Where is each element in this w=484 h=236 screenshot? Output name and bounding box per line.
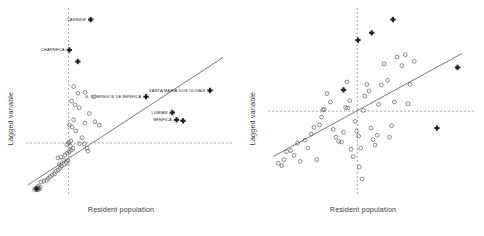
svg-text:CARNIDE: CARNIDE	[67, 17, 86, 22]
svg-text:SANTA MARIA DOS OLIVAIS: SANTA MARIA DOS OLIVAIS	[149, 88, 206, 93]
right-y-axis-label: Lagged variable	[246, 0, 260, 236]
svg-text:S. DOMINGOS DE BENFICA: S. DOMINGOS DE BENFICA	[85, 94, 141, 99]
moran-scatterplot-figure: CARNIDECHARNECASANTA MARIA DOS OLIVAISS.…	[0, 0, 484, 236]
right-panel: Lagged variable Resident population	[242, 0, 484, 236]
left-plot-canvas: CARNIDECHARNECASANTA MARIA DOS OLIVAISS.…	[0, 0, 242, 236]
left-x-axis-label: Resident population	[0, 205, 242, 214]
right-x-axis-label: Resident population	[242, 205, 484, 214]
svg-text:LUMIAR: LUMIAR	[152, 110, 168, 115]
left-panel: CARNIDECHARNECASANTA MARIA DOS OLIVAISS.…	[0, 0, 242, 236]
svg-text:BENFICA: BENFICA	[153, 117, 172, 122]
right-plot-canvas	[242, 0, 484, 236]
svg-text:CHARNECA: CHARNECA	[41, 47, 65, 52]
left-y-axis-label: Lagged variable	[4, 0, 18, 236]
